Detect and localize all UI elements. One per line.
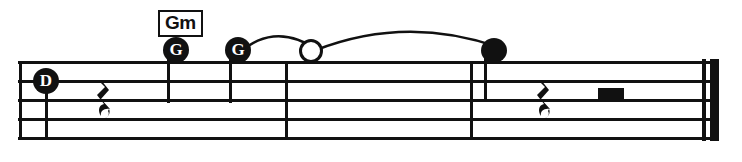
measure-barline-1	[285, 61, 288, 139]
rest-quarter-2	[535, 78, 555, 124]
note-open-whole-head	[299, 39, 323, 63]
tie-open-to-filled	[314, 17, 504, 57]
chord-symbol-gm: Gm	[158, 10, 203, 37]
staff-line-3	[18, 99, 716, 102]
note-g-1-head: G	[163, 37, 189, 63]
note-g-2-head: G	[225, 37, 251, 63]
staff-line-5	[18, 137, 716, 140]
final-barline-thin	[702, 59, 706, 141]
opening-barline	[19, 61, 22, 139]
music-staff-notation: Gm D G G	[0, 0, 742, 162]
rest-half-1	[598, 88, 624, 99]
chord-symbol-label: Gm	[165, 12, 196, 33]
note-d-head: D	[33, 68, 59, 94]
staff-line-4	[18, 118, 716, 121]
staff-line-1	[18, 61, 716, 64]
rest-quarter-1	[95, 78, 115, 124]
note-g-1-label: G	[169, 40, 182, 59]
note-filled-black-head	[481, 38, 507, 63]
staff-line-2	[18, 80, 716, 83]
note-d-label: D	[40, 71, 52, 90]
measure-barline-2	[470, 61, 473, 139]
final-barline-thick	[710, 59, 719, 141]
note-g-2-label: G	[231, 40, 244, 59]
